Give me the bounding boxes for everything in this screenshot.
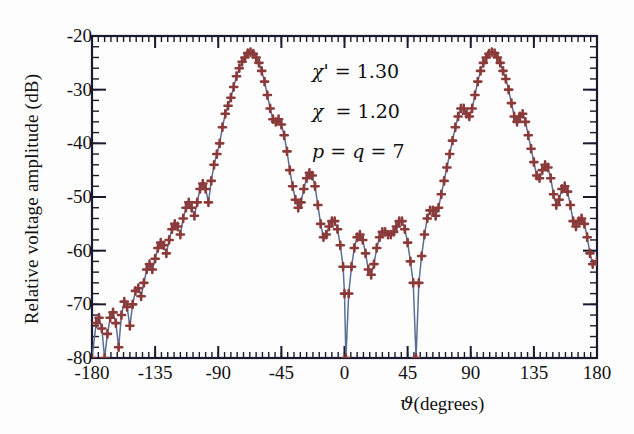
plot-area	[0, 0, 634, 434]
data-line	[92, 52, 597, 358]
data-layer	[88, 49, 600, 362]
chart-figure: Relative voltage amplitude (dB) -20-30-4…	[0, 0, 634, 434]
